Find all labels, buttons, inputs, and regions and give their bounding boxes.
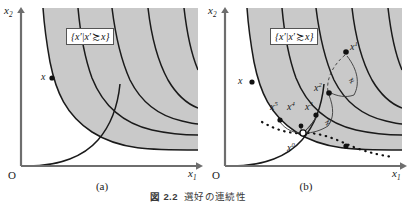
figure-caption-number: 図 2.2 — [150, 191, 178, 202]
point-label-x1: x1 — [350, 41, 358, 52]
point-label-x0: x0 — [287, 142, 295, 153]
origin-label-a: O — [8, 170, 16, 181]
panel-a: x2 x1 O {x′|x′≿x} x (a) — [0, 0, 204, 203]
point-label-x-a: x — [41, 72, 45, 82]
figure-caption: 図 2.2選好の連続性 — [150, 190, 408, 203]
point-label-x2: x2 — [314, 82, 322, 93]
point-label-x-b: x — [238, 76, 242, 86]
y-axis-label-b: x2 — [208, 5, 217, 19]
x-axis-label-b: x1 — [392, 168, 401, 182]
point-x0-open — [300, 130, 306, 136]
point-boundary — [343, 143, 348, 148]
y-axis-label-a: x2 — [4, 5, 13, 19]
point-x3 — [313, 112, 318, 117]
point-label-x5: x5 — [270, 101, 278, 112]
point-x5 — [277, 117, 282, 122]
set-label-a: {x′|x′≿x} — [66, 28, 114, 45]
x-axis-arrow-icon — [400, 162, 407, 170]
point-label-x4: x4 — [287, 101, 295, 112]
panel-b: x2 x1 O {x′|x′≿x} x x1 x2 x3 x4 x5 — [204, 0, 408, 203]
figure-root: x2 x1 O {x′|x′≿x} x (a) — [0, 0, 408, 203]
point-x-b — [249, 79, 254, 84]
point-x-a — [49, 75, 54, 80]
set-label-b: {x′|x′≿x} — [270, 28, 318, 45]
point-x2 — [326, 90, 332, 96]
point-label-x3: x3 — [305, 101, 313, 112]
x-axis-label-a: x1 — [188, 168, 197, 182]
figure-caption-text: 選好の連続性 — [184, 191, 246, 202]
point-x4 — [299, 124, 304, 129]
subcaption-a: (a) — [72, 180, 132, 192]
point-x1 — [343, 49, 349, 55]
origin-label-b: O — [212, 170, 220, 181]
x-axis-arrow-icon — [196, 162, 203, 170]
